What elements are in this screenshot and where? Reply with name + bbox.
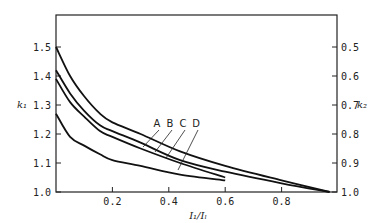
y2-tick-label: 0.9	[341, 158, 359, 169]
y2-axis-label: k₂	[357, 99, 367, 110]
y-tick-label: 1.2	[33, 129, 51, 140]
y2-tick-label: 0.5	[341, 42, 359, 53]
x-tick-label: 0.8	[273, 196, 291, 207]
chart: 0.20.40.60.81.01.11.21.31.41.51.00.90.80…	[0, 0, 382, 223]
leader-line-a	[143, 130, 159, 147]
y2-tick-label: 0.8	[341, 129, 359, 140]
line-chart: 0.20.40.60.81.01.11.21.31.41.51.00.90.80…	[0, 0, 382, 223]
y-tick-label: 1.5	[33, 42, 51, 53]
curve-label-c: C	[180, 118, 187, 129]
y2-tick-label: 1.0	[341, 187, 359, 198]
y-tick-label: 1.1	[33, 158, 51, 169]
curve-label-d: D	[192, 118, 200, 129]
x-tick-label: 0.2	[103, 196, 121, 207]
x-axis-label: I₁/Iₗ	[188, 210, 207, 221]
y2-tick-label: 0.6	[341, 71, 359, 82]
curve-label-a: A	[154, 118, 161, 129]
curve-b	[56, 70, 330, 192]
x-tick-label: 0.6	[216, 196, 234, 207]
curve-label-b: B	[167, 118, 174, 129]
y-tick-label: 1.4	[33, 71, 51, 82]
y-tick-label: 1.0	[33, 187, 51, 198]
y-tick-label: 1.3	[33, 100, 51, 111]
y-axis-label: k₁	[17, 99, 27, 110]
x-tick-label: 0.4	[160, 196, 178, 207]
